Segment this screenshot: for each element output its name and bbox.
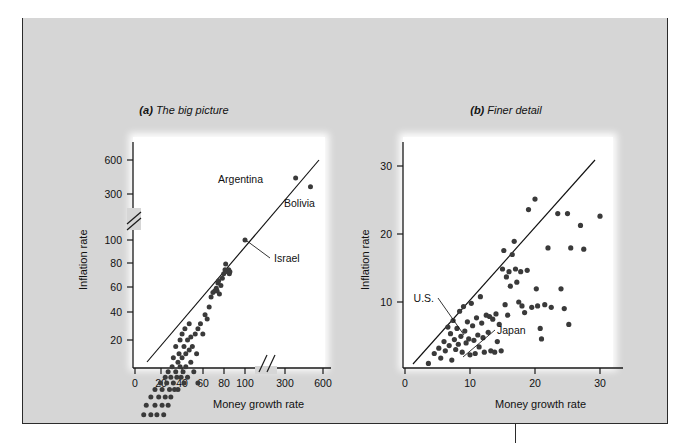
data-point [542,302,547,307]
data-point [475,332,480,337]
svg-text:80: 80 [218,377,230,389]
data-point [223,261,228,266]
svg-text:Japan: Japan [497,324,526,336]
data-point [457,309,462,314]
data-point [558,286,563,291]
data-point [597,214,602,219]
data-point [438,356,443,361]
svg-text:40: 40 [110,306,122,318]
data-point [173,344,178,349]
data-point [501,248,506,253]
svg-text:100: 100 [104,234,122,246]
data-point [198,321,203,326]
page-rule-tick [515,423,516,443]
data-point [181,369,186,374]
data-point [170,364,175,369]
data-point [562,306,567,311]
data-point [168,375,173,380]
panel-a-x-axis-break [255,355,277,374]
data-point [148,412,153,417]
data-point [471,338,476,343]
data-point [458,334,463,339]
data-point [426,361,431,366]
data-point [173,369,178,374]
data-point [456,342,461,347]
data-point [166,369,171,374]
data-point [578,223,583,228]
data-point [503,302,508,307]
data-point [545,245,550,250]
data-point [217,291,222,296]
data-point [243,238,248,243]
panel-a-annotation-argentina: Argentina [218,173,263,185]
data-point [220,276,225,281]
data-point [518,269,523,274]
panel-a-annotation-bolivia: Bolivia [284,197,315,209]
data-point [479,321,484,326]
data-point [227,269,232,274]
data-point [195,381,200,386]
svg-text:Argentina: Argentina [218,173,263,185]
data-point [152,387,157,392]
chart-area: (a) The big picture Inflation rate Money… [23,90,667,423]
svg-text:30: 30 [380,160,392,172]
data-point [566,322,571,327]
data-point [447,343,452,348]
chart-panel-b: (b) Finer detail Inflation rate Money gr… [345,90,667,423]
data-point [490,317,495,322]
data-point [453,347,458,352]
data-point [308,184,313,189]
data-point [175,360,180,365]
data-point [205,317,210,322]
data-point [161,412,166,417]
panel-b-x-ticks: 0 10 20 30 [402,368,606,389]
data-point [512,239,517,244]
data-point [188,334,193,339]
panel-a-y-axis-break [127,208,141,230]
data-point [183,364,188,369]
data-point [187,321,192,326]
data-point [448,331,453,336]
data-point [163,394,168,399]
svg-text:300: 300 [276,377,294,389]
panel-b-data-points [426,196,603,366]
data-point [495,339,500,344]
data-point [568,245,573,250]
data-point [478,294,483,299]
data-point [166,403,171,408]
data-point [167,387,172,392]
data-point [581,247,586,252]
data-point [526,207,531,212]
data-point [432,351,437,356]
chart-panel-a: (a) The big picture Inflation rate Money… [23,90,345,423]
svg-text:60: 60 [110,281,122,293]
data-point [191,369,196,374]
data-point [171,355,176,360]
data-point [141,412,146,417]
data-point [538,326,543,331]
data-point [514,280,519,285]
svg-text:10: 10 [380,296,392,308]
data-point [465,319,470,324]
data-point [185,375,190,380]
data-point [182,326,187,331]
data-point [549,305,554,310]
svg-text:30: 30 [594,377,606,389]
svg-text:100: 100 [236,377,254,389]
data-point [293,176,298,181]
data-point [500,266,505,271]
svg-text:0: 0 [132,377,138,389]
data-point [470,323,475,328]
data-point [209,294,214,299]
data-point [534,286,539,291]
svg-text:Israel: Israel [274,252,300,264]
data-point [177,351,182,356]
data-point [565,211,570,216]
data-point [154,412,159,417]
data-point [535,303,540,308]
data-point [152,403,157,408]
svg-text:U.S.: U.S. [414,292,434,304]
data-point [436,346,441,351]
svg-text:10: 10 [464,377,476,389]
data-point [188,360,193,365]
